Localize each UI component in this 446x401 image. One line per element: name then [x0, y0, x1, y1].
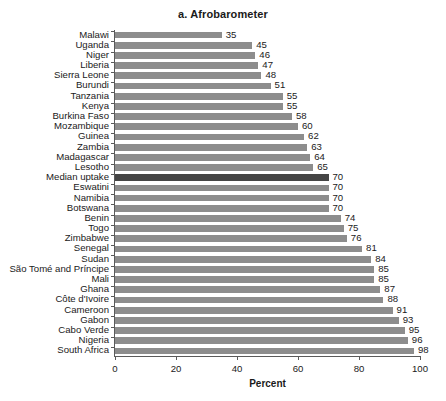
- x-axis-tick-label: 100: [412, 363, 428, 374]
- bar-value-label: 76: [351, 233, 362, 243]
- bar-row: Eswatini70: [115, 183, 420, 193]
- x-axis-tick: [359, 356, 360, 360]
- bar-value-label: 70: [333, 203, 344, 213]
- x-axis-tick-label: 20: [171, 363, 182, 374]
- bar: [115, 113, 292, 120]
- bar-row: South Africa98: [115, 346, 420, 356]
- bar: [115, 205, 329, 212]
- bar-row: Guinea62: [115, 132, 420, 142]
- bar: [115, 134, 304, 141]
- bar: [115, 286, 380, 293]
- bar: [115, 266, 374, 273]
- bar: [115, 72, 261, 79]
- bar-row: Cameroon91: [115, 305, 420, 315]
- bar-row: Zambia63: [115, 142, 420, 152]
- bar-row: Nigeria96: [115, 336, 420, 346]
- category-label: Eswatini: [73, 182, 109, 192]
- x-axis-tick: [237, 356, 238, 360]
- bar: [115, 235, 347, 242]
- bar: [115, 256, 371, 263]
- bar-value-label: 98: [418, 345, 429, 355]
- x-axis-tick-label: 0: [112, 363, 117, 374]
- bar-row: Cabo Verde95: [115, 325, 420, 335]
- x-axis-tick: [298, 356, 299, 360]
- bar: [115, 93, 283, 100]
- bar: [115, 246, 362, 253]
- bar-row: Benin74: [115, 213, 420, 223]
- bar-row: Gabon93: [115, 315, 420, 325]
- bar: [115, 144, 307, 151]
- bar: [115, 276, 374, 283]
- x-axis-tick-label: 80: [354, 363, 365, 374]
- chart-container: a. Afrobarometer Malawi35Uganda45Niger46…: [0, 0, 446, 401]
- bar: [115, 195, 329, 202]
- bar-row: Burkina Faso58: [115, 112, 420, 122]
- bar-value-label: 65: [317, 162, 328, 172]
- bar: [115, 174, 329, 181]
- bar: [115, 103, 283, 110]
- bar-value-label: 51: [275, 80, 286, 90]
- bar: [115, 327, 405, 334]
- bar-row: Sudan84: [115, 254, 420, 264]
- bar: [115, 317, 399, 324]
- bar: [115, 337, 408, 344]
- bar: [115, 185, 329, 192]
- bar: [115, 348, 414, 355]
- bar-row: Lesotho65: [115, 162, 420, 172]
- bar: [115, 123, 298, 130]
- category-label: South Africa: [57, 345, 109, 355]
- bar-row: Burundi51: [115, 81, 420, 91]
- bar-row: Togo75: [115, 224, 420, 234]
- bar-row: Madagascar64: [115, 152, 420, 162]
- x-axis-tick: [176, 356, 177, 360]
- bar-row: Median uptake70: [115, 173, 420, 183]
- bar-row: Botswana70: [115, 203, 420, 213]
- x-axis-title: Percent: [115, 378, 420, 389]
- bar-value-label: 35: [226, 30, 237, 40]
- bar: [115, 215, 341, 222]
- bar: [115, 164, 313, 171]
- bar: [115, 154, 310, 161]
- bar-row: Mozambique60: [115, 122, 420, 132]
- plot-area: Malawi35Uganda45Niger46Liberia47Sierra L…: [115, 30, 420, 356]
- chart-title: a. Afrobarometer: [0, 8, 446, 20]
- bar: [115, 225, 344, 232]
- bar-value-label: 70: [333, 182, 344, 192]
- bar-row: Ghana87: [115, 285, 420, 295]
- bar-row: Tanzania55: [115, 91, 420, 101]
- bar-row: Côte d'Ivoire88: [115, 295, 420, 305]
- bar: [115, 32, 222, 39]
- bar: [115, 62, 258, 69]
- bar: [115, 83, 271, 90]
- bar-row: Kenya55: [115, 101, 420, 111]
- bar-row: São Tomé and Príncipe85: [115, 264, 420, 274]
- bar: [115, 42, 252, 49]
- x-axis-tick-label: 40: [232, 363, 243, 374]
- bar-row: Sierra Leone48: [115, 71, 420, 81]
- x-axis-line: [114, 356, 420, 357]
- bar-row: Mali85: [115, 275, 420, 285]
- bar: [115, 297, 383, 304]
- bar-row: Namibia70: [115, 193, 420, 203]
- bar: [115, 307, 393, 314]
- x-axis-tick-label: 60: [293, 363, 304, 374]
- bar: [115, 52, 255, 59]
- bar-row: Malawi35: [115, 30, 420, 40]
- x-axis-tick: [420, 356, 421, 360]
- x-axis-tick: [115, 356, 116, 360]
